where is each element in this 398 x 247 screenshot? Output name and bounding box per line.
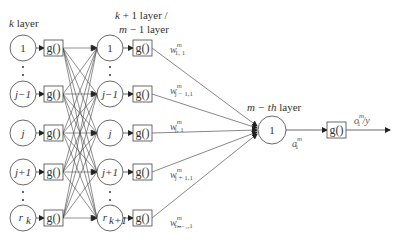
weight-label-j-1: wmj − 1,1 [170, 86, 200, 97]
svg-text:g(): g() [136, 211, 150, 225]
input-node-j-1: j−1 [10, 81, 36, 107]
weight-label-rm-1: wmrₘ₋₁,1 [170, 218, 200, 229]
svg-text:g(): g() [47, 165, 61, 179]
hidden-activation-labels: g() g() g() g() g() [136, 41, 150, 225]
output-activation-label: g() [330, 123, 344, 137]
hidden-node-j+1: j+1 [97, 159, 123, 185]
svg-text:g(): g() [136, 41, 150, 55]
svg-text:1: 1 [107, 42, 113, 54]
svg-text:r: r [19, 211, 24, 223]
hidden-node-rk1: r k+1 [97, 205, 127, 231]
svg-text:j+1: j+1 [13, 166, 31, 178]
m-minus-1-layer-label: m − 1 layer [119, 23, 169, 35]
k-plus-1-layer-label: k + 1 layer / [115, 9, 168, 21]
output-connections [152, 48, 257, 218]
k-layer-label: k layer [9, 17, 39, 29]
svg-text:r: r [103, 211, 108, 223]
svg-text:j−1: j−1 [13, 88, 31, 100]
svg-text:g(): g() [47, 211, 61, 225]
input-node-1: 1 [10, 35, 36, 61]
hidden-node-j-1: j−1 [97, 81, 123, 107]
weight-label-j+1: wmj + 1,1 [170, 170, 200, 181]
hidden-node-1: 1 [97, 35, 123, 61]
hidden-layer: 1 j−1 j j+1 r k+1 [97, 35, 127, 231]
weight-label-1: wm1, 1 [170, 45, 192, 56]
output-final-label: om1/y [354, 116, 375, 127]
output-sum-label: am1 [292, 139, 306, 150]
dense-connections [63, 45, 97, 221]
output-node: 1 [258, 116, 286, 144]
svg-text:j+1: j+1 [100, 166, 118, 178]
svg-text:1: 1 [20, 42, 26, 54]
weight-label-j: wmj, 1 [170, 122, 191, 133]
neural-network-diagram: 1 j−1 j j+1 r k [0, 0, 398, 247]
svg-text:k+1: k+1 [109, 214, 127, 226]
svg-text:g(): g() [47, 126, 61, 140]
svg-text:g(): g() [136, 126, 150, 140]
svg-text:g(): g() [136, 87, 150, 101]
input-node-j+1: j+1 [10, 159, 36, 185]
svg-text:g(): g() [47, 41, 61, 55]
m-th-layer-label: m − th layer [247, 101, 301, 113]
hidden-node-j: j [97, 120, 123, 146]
input-node-rk: r k [10, 205, 36, 231]
input-activation-labels: g() g() g() g() g() [47, 41, 61, 225]
svg-text:1: 1 [269, 124, 275, 136]
svg-text:g(): g() [136, 165, 150, 179]
svg-text:j−1: j−1 [100, 88, 118, 100]
svg-text:g(): g() [47, 87, 61, 101]
input-node-j: j [10, 120, 36, 146]
